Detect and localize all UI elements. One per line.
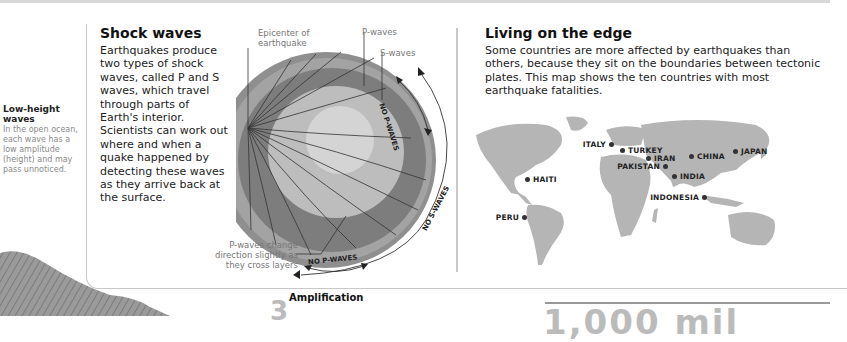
shock-waves-title: Shock waves: [100, 25, 202, 41]
p-waves-label: P-waves: [362, 27, 397, 37]
country-marker-haiti: HAITI: [525, 175, 557, 184]
section-divider: [456, 28, 458, 272]
country-marker-italy: ITALY: [583, 140, 614, 149]
low-height-waves-text: In the open ocean, each wave has a low a…: [3, 125, 83, 175]
country-label: PERU: [496, 213, 519, 222]
low-height-waves-caption: Low-height waves In the open ocean, each…: [3, 104, 83, 175]
country-marker-japan: JAPAN: [733, 147, 768, 156]
location-dot-icon: [733, 149, 738, 154]
location-dot-icon: [522, 215, 527, 220]
country-marker-china: CHINA: [689, 152, 725, 161]
location-dot-icon: [525, 177, 530, 182]
top-divider: [0, 0, 830, 3]
location-dot-icon: [646, 156, 651, 161]
country-label: CHINA: [697, 152, 725, 161]
living-on-edge-body: Some countries are more affected by eart…: [485, 44, 830, 98]
epicenter-label: Epicenter of earthquake: [258, 28, 328, 48]
world-map: [466, 115, 830, 270]
location-dot-icon: [702, 195, 707, 200]
country-label: JAPAN: [741, 147, 768, 156]
country-label: ITALY: [583, 140, 606, 149]
location-dot-icon: [620, 148, 625, 153]
country-label: INDONESIA: [650, 193, 699, 202]
country-marker-peru: PERU: [496, 213, 527, 222]
big-number: 1,000 mil: [543, 307, 739, 337]
p-waves-change-label: P-waves change direction slightly as the…: [200, 240, 298, 270]
shock-waves-body: Earthquakes produce two types of shock w…: [100, 44, 230, 205]
country-marker-pakistan: PAKISTAN: [617, 162, 668, 171]
living-on-edge-title: Living on the edge: [485, 25, 632, 41]
location-dot-icon: [672, 174, 677, 179]
country-marker-indonesia: INDONESIA: [650, 193, 707, 202]
country-label: PAKISTAN: [617, 162, 660, 171]
location-dot-icon: [689, 154, 694, 159]
location-dot-icon: [663, 164, 668, 169]
country-marker-india: INDIA: [672, 172, 705, 181]
s-waves-label: S-waves: [380, 48, 415, 58]
country-label: HAITI: [533, 175, 557, 184]
country-label: INDIA: [680, 172, 705, 181]
amplification-title: Amplification: [289, 292, 363, 303]
location-dot-icon: [609, 142, 614, 147]
step-number: 3: [270, 299, 288, 323]
low-height-waves-title: Low-height waves: [3, 104, 83, 124]
